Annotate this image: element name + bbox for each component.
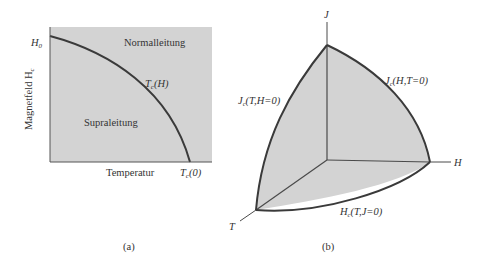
axis-label-t: T — [229, 221, 236, 232]
y-tick-h0: H0 — [30, 37, 43, 50]
panel-b-critical-surface: J H T Jc(T,H=0) Jc(H,T=0) Hc(T,J=0) (b) — [229, 9, 463, 253]
axis-label-h: H — [453, 157, 463, 168]
region-normal-label: Normalleitung — [124, 37, 186, 48]
label-jc-h-t0: Jc(H,T=0) — [385, 75, 428, 87]
x-axis-label: Temperatur — [106, 167, 155, 178]
y-axis-label: Magnetfeld Hc — [23, 67, 36, 130]
caption-a: (a) — [123, 241, 135, 253]
label-jc-t-h0: Jc(T,H=0) — [238, 95, 281, 107]
x-tick-tc0: Tc(0) — [180, 167, 202, 180]
region-super-label: Supraleitung — [84, 117, 138, 128]
axis-label-j: J — [324, 9, 330, 20]
superconductivity-phase-diagrams: H0 Magnetfeld Hc Normalleitung Tc(H) Sup… — [0, 0, 482, 266]
caption-b: (b) — [322, 241, 335, 253]
t-axis — [240, 210, 256, 221]
panel-a-phase-diagram: H0 Magnetfeld Hc Normalleitung Tc(H) Sup… — [23, 27, 212, 253]
label-hc-t-j0: Hc(T,J=0) — [339, 206, 383, 218]
critical-surface-fill — [256, 45, 430, 210]
